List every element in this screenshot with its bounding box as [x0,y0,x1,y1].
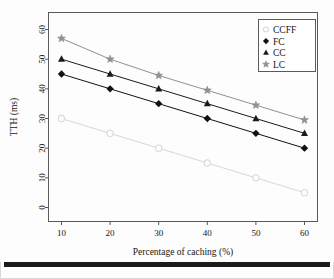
legend-label-CC: CC [273,48,286,58]
x-tick-label: 50 [251,228,261,238]
figure-page: 0102030405060 102030405060 TTH (ms) Perc… [0,0,334,279]
legend-label-LC: LC [273,60,285,70]
y-axis-title: TTH (ms) [9,98,20,136]
y-tick-label: 50 [37,54,47,64]
x-tick-label: 30 [154,228,164,238]
data-point-open-circle [204,160,210,166]
chart-legend: CCFFFCCCLC [259,20,316,72]
x-tick-label: 40 [203,228,213,238]
data-point-open-circle [264,27,269,32]
y-tick-label: 30 [37,114,47,124]
data-point-open-circle [301,190,307,196]
y-tick-label: 60 [37,25,47,35]
data-point-open-circle [58,115,64,121]
data-point-open-circle [107,130,113,136]
x-tick-label: 10 [57,228,67,238]
y-tick-label: 10 [37,173,47,183]
legend-label-CCFF: CCFF [273,25,296,35]
tth-vs-caching-line-chart: 0102030405060 102030405060 TTH (ms) Perc… [0,0,334,262]
y-tick-label: 20 [37,143,47,153]
x-tick-label: 20 [106,228,116,238]
bottom-rule-bar [4,262,330,267]
data-point-open-circle [253,175,259,181]
x-axis-title: Percentage of caching (%) [133,247,234,258]
legend-label-FC: FC [273,37,285,47]
y-tick-label: 40 [37,84,47,94]
y-tick-label: 0 [37,205,47,210]
data-point-open-circle [156,145,162,151]
x-tick-label: 60 [300,228,310,238]
